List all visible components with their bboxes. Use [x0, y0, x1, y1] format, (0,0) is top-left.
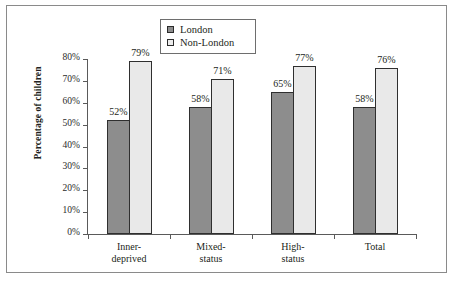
- bar-london[interactable]: [107, 120, 130, 234]
- x-axis-category-label-line: deprived: [84, 253, 174, 265]
- y-axis-tick-label: 60%: [63, 96, 80, 106]
- x-axis-tick-mark: [252, 234, 253, 239]
- y-axis-tick-label: 40%: [63, 140, 80, 150]
- y-axis-tick-label: 10%: [63, 205, 80, 215]
- x-axis-category-label-line: Total: [330, 241, 420, 253]
- y-axis-tick-label: 50%: [63, 118, 80, 128]
- x-axis-tick-mark: [88, 234, 89, 239]
- x-axis-category-label-line: status: [166, 253, 256, 265]
- x-axis-category-label: Mixed-status: [166, 241, 256, 264]
- legend-label-non-london: Non-London: [180, 37, 234, 49]
- bar-london[interactable]: [189, 107, 212, 234]
- y-axis-tick-label: 20%: [63, 183, 80, 193]
- bar-non-london[interactable]: [129, 61, 152, 234]
- bar-value-label: 71%: [203, 65, 242, 76]
- y-axis-tick-label: 0%: [67, 227, 80, 237]
- y-axis-tick-label: 80%: [63, 52, 80, 62]
- x-axis-category-label-line: Inner-: [84, 241, 174, 253]
- bar-london[interactable]: [353, 107, 376, 234]
- legend-swatch-icon-non-london: [167, 39, 174, 46]
- bar-value-label: 77%: [285, 52, 324, 63]
- x-axis-category-label-line: High-: [248, 241, 338, 253]
- x-axis-tick-mark: [170, 234, 171, 239]
- x-axis-category-label: Inner-deprived: [84, 241, 174, 264]
- bar-value-label: 76%: [367, 54, 406, 65]
- bar-value-label: 79%: [121, 47, 160, 58]
- y-axis-tick-label: 70%: [63, 74, 80, 84]
- x-axis-category-label: High-status: [248, 241, 338, 264]
- x-axis-category-label-line: Mixed-: [166, 241, 256, 253]
- x-axis-tick-mark: [416, 234, 417, 239]
- y-axis-tick-label: 30%: [63, 161, 80, 171]
- bar-non-london[interactable]: [211, 79, 234, 234]
- y-axis-ticks: 80%70%60%50%40%30%20%10%0%: [0, 0, 88, 286]
- chart-legend: London Non-London: [160, 19, 256, 54]
- bar-non-london[interactable]: [375, 68, 398, 234]
- legend-swatch-icon-london: [167, 26, 174, 33]
- bar-non-london[interactable]: [293, 66, 316, 234]
- x-axis-tick-mark: [334, 234, 335, 239]
- x-axis-category-label-line: status: [248, 253, 338, 265]
- bar-london[interactable]: [271, 92, 294, 234]
- legend-label-london: London: [180, 24, 213, 36]
- legend-item-non-london[interactable]: Non-London: [167, 36, 249, 49]
- chart-figure: Percentage of children 80%70%60%50%40%30…: [0, 0, 454, 286]
- x-axis-category-label: Total: [330, 241, 420, 253]
- legend-item-london[interactable]: London: [167, 23, 249, 36]
